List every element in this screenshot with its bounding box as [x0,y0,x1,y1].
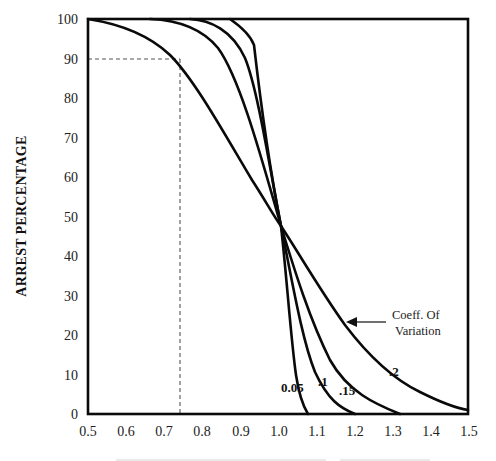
y-tick: 60 [64,170,78,185]
annotation-line-2: Variation [395,324,442,338]
y-axis-label: ARREST PERCENTAGE [14,135,29,296]
coeff-variation-annotation: Coeff. Of Variation [346,308,442,338]
x-tick: 1.0 [270,424,288,439]
y-tick: 20 [64,328,78,343]
x-axis-ticks: 0.5 0.6 0.7 0.8 0.9 1.0 1.1 1.2 1.3 1.4 … [79,424,478,439]
annotation-line-1: Coeff. Of [392,308,441,322]
x-tick: 1.2 [346,424,364,439]
x-tick: 0.9 [232,424,250,439]
y-tick: 30 [64,289,78,304]
y-tick: 10 [64,368,78,383]
reference-90-percent [88,59,180,414]
y-tick: 80 [64,91,78,106]
label-cv-0.1: .1 [318,374,328,389]
y-tick: 40 [64,249,78,264]
x-tick: 1.5 [460,424,478,439]
y-tick: 50 [64,210,78,225]
x-tick: 0.5 [79,424,97,439]
y-tick: 70 [64,131,78,146]
y-axis-ticks: 0 10 20 30 40 50 60 70 80 90 100 [57,12,78,422]
x-tick: 1.1 [308,424,326,439]
curve-cv-0.1 [190,19,355,414]
label-cv-0.15: .15 [339,383,356,398]
x-tick: 1.4 [422,424,440,439]
y-tick: 90 [64,52,78,67]
y-tick: 100 [57,12,78,27]
curves [88,19,468,414]
x-tick: 0.7 [155,424,173,439]
label-cv-0.05: 0.05 [281,380,304,395]
x-tick: 0.6 [117,424,135,439]
arrest-percentage-chart: ARREST PERCENTAGE 0 10 20 30 40 50 60 70… [0,0,496,461]
x-tick: 1.3 [384,424,402,439]
x-tick: 0.8 [193,424,211,439]
curve-cv-0.05 [230,19,308,414]
y-tick: 0 [71,407,78,422]
arrow-left-icon [346,317,357,327]
label-cv-0.2: .2 [389,364,399,379]
